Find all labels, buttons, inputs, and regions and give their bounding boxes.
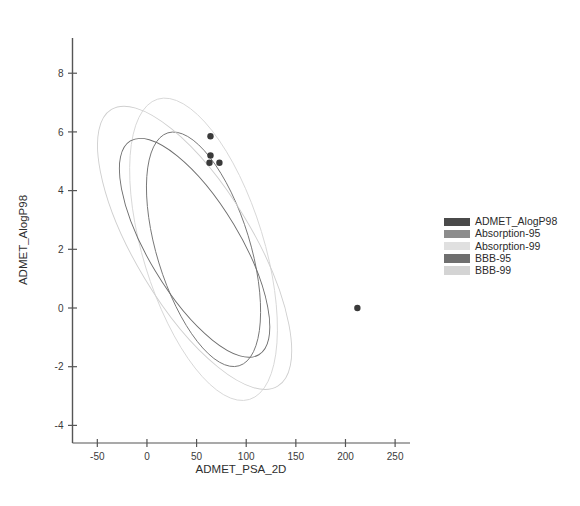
x-tick-label: 0: [144, 451, 150, 462]
ellipse-bbb-95: [91, 117, 298, 378]
data-points: [206, 133, 360, 311]
x-tick-label: 100: [238, 451, 255, 462]
y-tick-label: 6: [58, 127, 64, 138]
legend-swatch: [444, 254, 470, 263]
y-tick-label: 0: [58, 303, 64, 314]
legend-label: Absorption-95: [475, 228, 540, 239]
data-point: [206, 160, 212, 166]
x-axis-title: ADMET_PSA_2D: [196, 463, 287, 475]
scatter-chart: -50050100150200250 -4-202468 ADMET_PSA_2…: [0, 0, 580, 506]
legend-label: Absorption-99: [475, 241, 540, 252]
x-tick-label: -50: [90, 451, 105, 462]
data-point: [354, 305, 360, 311]
legend-label: BBB-99: [475, 265, 511, 276]
legend-label: ADMET_AlogP98: [475, 216, 557, 227]
y-axis-ticks: -4-202468: [55, 68, 77, 431]
legend-swatch: [444, 242, 470, 251]
legend-swatch: [444, 266, 470, 275]
y-tick-label: 8: [58, 68, 64, 79]
x-tick-label: 200: [337, 451, 354, 462]
y-tick-label: -2: [55, 361, 64, 372]
x-tick-label: 250: [387, 451, 404, 462]
legend-item: BBB-95: [444, 253, 576, 265]
y-tick-label: 4: [58, 185, 64, 196]
legend-swatch: [444, 218, 470, 227]
legend-item: Absorption-95: [444, 228, 576, 240]
confidence-ellipses: [61, 79, 328, 417]
y-axis-title: ADMET_AlogP98: [17, 195, 29, 285]
legend-label: BBB-95: [475, 253, 511, 264]
y-tick-label: -4: [55, 420, 64, 431]
x-tick-label: 150: [288, 451, 305, 462]
x-tick-label: 50: [191, 451, 203, 462]
data-point: [216, 160, 222, 166]
data-point: [207, 152, 213, 158]
ellipse-bbb-99: [61, 79, 328, 416]
legend-item: Absorption-99: [444, 240, 576, 252]
y-tick-label: 2: [58, 244, 64, 255]
legend-item: ADMET_AlogP98: [444, 216, 576, 228]
chart-legend: ADMET_AlogP98Absorption-95Absorption-99B…: [444, 216, 576, 277]
legend-item: BBB-99: [444, 265, 576, 277]
ellipse-absorption-95: [123, 119, 283, 379]
legend-swatch: [444, 230, 470, 239]
ellipse-absorption-99: [100, 81, 308, 417]
data-point: [207, 133, 213, 139]
